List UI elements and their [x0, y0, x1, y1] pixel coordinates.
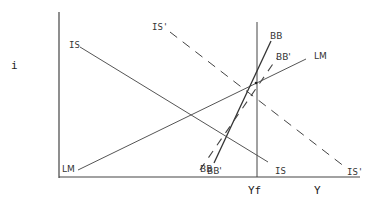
bb-label-top: BB — [270, 31, 282, 41]
is-lm-bb-diagram: i Y Yf IS IS IS' IS' LM LM BB BB BB' BB' — [0, 0, 376, 208]
y-axis-label: i — [11, 59, 18, 72]
bb-prime-label-top: BB' — [276, 52, 291, 62]
yf-label: Yf — [248, 184, 261, 197]
lm-label-right: LM — [314, 51, 327, 61]
is-label-top: IS — [69, 40, 80, 50]
is-curve — [80, 47, 268, 162]
is-prime-label-top: IS' — [152, 22, 168, 32]
bb-prime-label-bottom: BB' — [207, 166, 222, 176]
lm-curve — [78, 59, 306, 170]
lm-label-left: LM — [62, 164, 75, 174]
x-axis-label: Y — [314, 184, 321, 197]
bb-prime-curve — [200, 58, 277, 170]
is-prime-label-bottom: IS' — [347, 167, 363, 177]
is-label-bottom: IS — [275, 166, 286, 176]
equilibrium-point — [255, 82, 258, 85]
bb-curve — [214, 41, 271, 163]
